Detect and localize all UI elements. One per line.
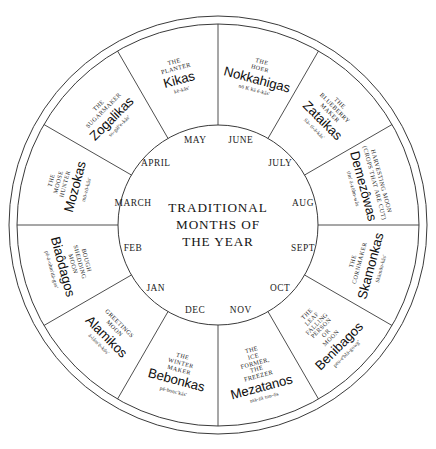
month-label-jan: JAN [146, 283, 165, 293]
center-title-line3: THE YEAR [182, 234, 254, 249]
month-label-aug: AUG [292, 198, 314, 208]
month-label-july: JULY [268, 158, 292, 168]
center-title-line1: TRADITIONAL [168, 200, 267, 215]
month-label-sept: SEPT [291, 243, 315, 253]
month-label-june: JUNE [228, 135, 253, 145]
month-label-dec: DEC [185, 305, 205, 315]
center-title-line2: MONTHS OF [176, 217, 260, 232]
wheel-diagram: TRADITIONAL MONTHS OF THE YEAR JUNEJULYA… [0, 0, 436, 449]
month-label-oct: OCT [270, 283, 290, 293]
traditional-months-wheel: TRADITIONAL MONTHS OF THE YEAR JUNEJULYA… [0, 0, 436, 449]
month-label-april: APRIL [141, 158, 171, 168]
month-label-march: MARCH [115, 198, 152, 208]
month-label-nov: NOV [230, 305, 252, 315]
month-label-may: MAY [184, 135, 207, 145]
month-label-feb: FEB [124, 243, 143, 253]
